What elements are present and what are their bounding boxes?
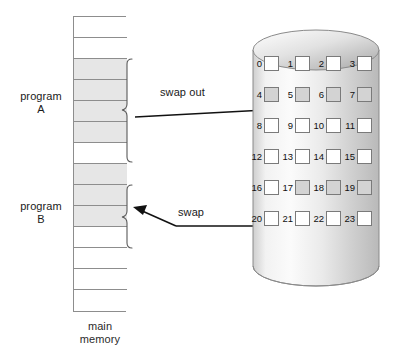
disk-block-number-21: 21 [277,211,293,226]
memory-cell-11 [74,248,127,269]
disk-block-3 [357,56,372,71]
disk-block-23 [357,211,372,226]
program-b-label: program B [8,200,74,226]
disk-block-number-22: 22 [308,211,324,226]
disk-block-19 [357,180,372,195]
memory-cell-9 [74,206,127,227]
disk-block-number-4: 4 [246,87,262,102]
memory-cell-10 [74,227,127,248]
memory-cell-8 [74,185,127,206]
disk-block-number-18: 18 [308,180,324,195]
disk-block-number-1: 1 [277,56,293,71]
disk-block-number-9: 9 [277,118,293,133]
swap-out-label: swap out [160,86,230,99]
disk-block-number-16: 16 [246,180,262,195]
memory-cell-4 [74,101,127,122]
disk-block-number-5: 5 [277,87,293,102]
disk-block-number-3: 3 [339,56,355,71]
swap-in-label: swap [178,206,228,219]
main-memory-caption: main memory [55,320,145,346]
disk-block-number-19: 19 [339,180,355,195]
memory-cell-5 [74,122,127,143]
disk-block-number-23: 23 [339,211,355,226]
disk-block-number-10: 10 [308,118,324,133]
swap-in-arrowhead [133,205,147,215]
disk-block-11 [357,118,372,133]
disk-block-number-14: 14 [308,149,324,164]
disk-block-number-20: 20 [246,211,262,226]
memory-cell-6 [74,143,127,164]
memory-cell-7 [74,164,127,185]
program-a-label: program A [8,90,74,116]
disk-block-7 [357,87,372,102]
disk-block-15 [357,149,372,164]
disk-block-number-12: 12 [246,149,262,164]
disk-block-number-11: 11 [339,118,355,133]
memory-cell-0 [74,17,127,38]
memory-cell-13 [74,290,127,311]
disk-block-number-15: 15 [339,149,355,164]
disk-block-number-13: 13 [277,149,293,164]
memory-cell-12 [74,269,127,290]
disk-block-number-2: 2 [308,56,324,71]
swapping-diagram: main memory program A program B [0,0,395,364]
memory-cell-1 [74,38,127,59]
disk-block-number-7: 7 [339,87,355,102]
disk-block-number-8: 8 [246,118,262,133]
disk-block-number-0: 0 [246,56,262,71]
disk-block-grid: 01234567891011121314151617181920212223 [252,32,380,290]
memory-cell-3 [74,80,127,101]
memory-cell-2 [74,59,127,80]
main-memory-column [73,16,126,312]
disk-block-number-6: 6 [308,87,324,102]
disk-block-number-17: 17 [277,180,293,195]
